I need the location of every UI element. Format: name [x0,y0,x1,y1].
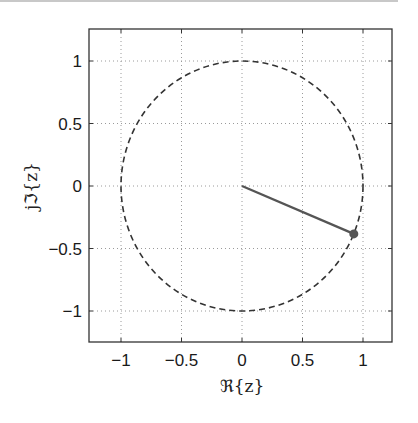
x-tick-labels: −1−0.500.51 [111,351,367,370]
grid-lines [89,29,392,342]
y-tick-label: 0.5 [58,115,82,134]
y-tick-label: −1 [63,302,82,321]
y-axis-label: jℑ{z} [21,162,41,212]
x-tick-label: 1 [358,351,367,370]
x-tick-label: 0 [237,351,246,370]
tick-marks [89,29,392,342]
y-tick-label: −0.5 [48,240,82,259]
x-tick-label: −0.5 [165,351,199,370]
phasor-tip-marker [349,229,358,238]
x-tick-label: 0.5 [291,351,315,370]
y-tick-labels: −1−0.500.51 [48,52,82,321]
x-tick-label: −1 [111,351,130,370]
y-tick-label: 1 [73,52,82,71]
complex-plane-chart: −1−0.500.51 −1−0.500.51 ℜ{z} jℑ{z} [0,0,418,423]
x-axis-label: ℜ{z} [220,376,265,396]
axes-box [89,29,392,342]
y-tick-label: 0 [73,177,82,196]
phasor-line [242,186,354,234]
